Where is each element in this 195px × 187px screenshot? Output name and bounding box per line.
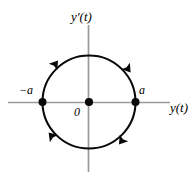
left-intercept-dot [39,98,47,106]
right-intercept-dot [132,98,140,106]
origin-label: 0 [74,106,80,118]
y-prime-axis-label: y′(t) [71,10,92,23]
arrow-upper-right-icon [121,63,135,76]
origin-point-dot [85,98,93,106]
y-axis-label: y(t) [170,101,188,114]
right-intercept-label: a [139,84,145,96]
left-intercept-label: −a [19,84,33,96]
phase-plane-figure: y′(t) y(t) −a a 0 [0,0,195,187]
